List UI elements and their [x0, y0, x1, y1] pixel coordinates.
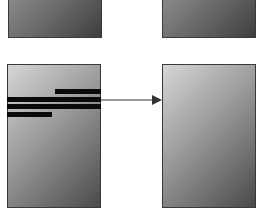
arrow-right-icon [100, 94, 164, 106]
panel-top-left [8, 0, 102, 38]
redaction-bar-4 [7, 112, 52, 117]
diagram-canvas [0, 0, 256, 209]
redaction-bar-1 [55, 89, 101, 94]
panel-bottom-left [7, 64, 101, 208]
panel-bottom-right [162, 64, 256, 208]
redaction-bar-3 [7, 104, 101, 109]
panel-top-right [162, 0, 256, 38]
redaction-bar-2 [7, 97, 101, 102]
